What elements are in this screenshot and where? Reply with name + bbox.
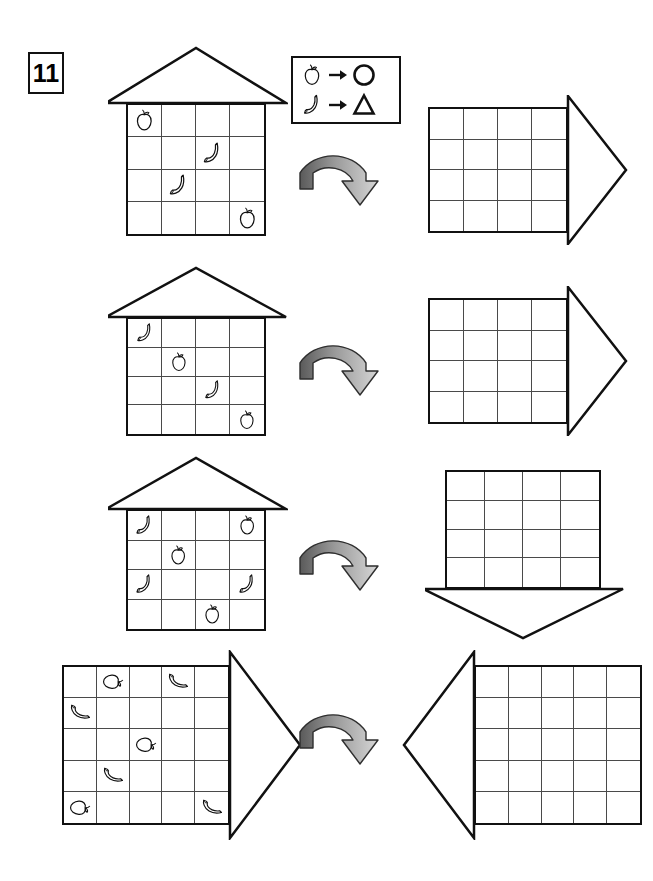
grid-cell[interactable] <box>523 530 561 559</box>
grid-cell[interactable] <box>532 300 566 331</box>
grid-cell[interactable] <box>561 530 599 559</box>
grid-cell[interactable] <box>561 472 599 501</box>
banana-icon <box>165 172 192 199</box>
empty-answer-grid[interactable] <box>428 107 568 233</box>
grid-cell <box>162 570 196 600</box>
grid-cell[interactable] <box>532 392 566 423</box>
grid-cell[interactable] <box>542 698 575 729</box>
grid-cell[interactable] <box>607 792 640 823</box>
house-grid-answer-1[interactable] <box>428 95 628 245</box>
banana-icon <box>199 795 225 821</box>
grid-cell[interactable] <box>561 501 599 530</box>
grid-cell[interactable] <box>498 109 532 140</box>
grid-cell[interactable] <box>523 501 561 530</box>
grid-cell[interactable] <box>430 140 464 171</box>
grid-cell[interactable] <box>464 331 498 362</box>
banana-icon <box>67 700 93 726</box>
grid-cell[interactable] <box>430 201 464 232</box>
grid-cell[interactable] <box>447 501 485 530</box>
grid-cell[interactable] <box>542 667 575 698</box>
grid-cell[interactable] <box>542 761 575 792</box>
grid-cell[interactable] <box>574 792 607 823</box>
grid-cell[interactable] <box>464 201 498 232</box>
empty-answer-grid[interactable] <box>474 665 642 825</box>
grid-cell[interactable] <box>542 792 575 823</box>
grid-cell[interactable] <box>464 361 498 392</box>
grid-cell[interactable] <box>485 472 523 501</box>
grid-cell[interactable] <box>498 392 532 423</box>
grid-cell[interactable] <box>430 300 464 331</box>
grid-cell[interactable] <box>532 170 566 201</box>
grid-cell[interactable] <box>607 729 640 760</box>
grid-cell[interactable] <box>542 729 575 760</box>
house-grid-answer-2[interactable] <box>428 286 628 436</box>
grid-cell[interactable] <box>476 761 509 792</box>
grid-cell[interactable] <box>607 698 640 729</box>
house-grid-answer-4[interactable] <box>402 650 642 840</box>
grid-cell[interactable] <box>607 667 640 698</box>
grid-cell[interactable] <box>532 140 566 171</box>
grid-cell[interactable] <box>509 667 542 698</box>
grid-cell[interactable] <box>509 792 542 823</box>
grid-cell[interactable] <box>532 361 566 392</box>
grid-cell[interactable] <box>485 530 523 559</box>
transformation-legend <box>291 56 401 124</box>
curved-arrow-body <box>300 541 378 590</box>
grid-cell[interactable] <box>447 558 485 587</box>
banana-icon <box>133 321 157 345</box>
grid-cell[interactable] <box>574 729 607 760</box>
grid-cell[interactable] <box>476 698 509 729</box>
apple-icon <box>234 205 261 232</box>
grid-cell[interactable] <box>476 729 509 760</box>
grid-cell[interactable] <box>532 201 566 232</box>
grid-cell[interactable] <box>509 698 542 729</box>
grid-cell[interactable] <box>430 392 464 423</box>
grid-cell[interactable] <box>430 109 464 140</box>
grid-cell[interactable] <box>464 170 498 201</box>
grid-cell[interactable] <box>464 109 498 140</box>
grid-cell[interactable] <box>430 170 464 201</box>
grid-cell[interactable] <box>509 729 542 760</box>
grid-cell <box>162 202 196 234</box>
apple-icon <box>67 795 93 821</box>
grid-cell <box>195 667 228 698</box>
empty-answer-grid[interactable] <box>428 298 568 424</box>
grid-cell[interactable] <box>485 558 523 587</box>
grid-cell[interactable] <box>464 392 498 423</box>
grid-cell[interactable] <box>476 667 509 698</box>
grid-cell[interactable] <box>447 530 485 559</box>
grid-cell <box>128 541 162 571</box>
rotation-arrow-row-2 <box>294 333 394 401</box>
grid-cell <box>196 570 230 600</box>
grid-cell[interactable] <box>498 140 532 171</box>
grid-cell <box>162 105 196 137</box>
curved-arrow-body <box>300 346 378 395</box>
grid-cell[interactable] <box>607 761 640 792</box>
grid-cell[interactable] <box>523 558 561 587</box>
grid-cell <box>162 600 196 630</box>
grid-cell[interactable] <box>498 361 532 392</box>
grid-cell[interactable] <box>574 667 607 698</box>
grid-cell[interactable] <box>430 331 464 362</box>
grid-cell <box>128 600 162 630</box>
grid-cell[interactable] <box>447 472 485 501</box>
grid-cell[interactable] <box>464 140 498 171</box>
grid-cell[interactable] <box>509 761 542 792</box>
grid-cell[interactable] <box>561 558 599 587</box>
grid-cell[interactable] <box>498 300 532 331</box>
grid-cell[interactable] <box>523 472 561 501</box>
grid-cell[interactable] <box>476 792 509 823</box>
grid-cell[interactable] <box>498 331 532 362</box>
grid-cell[interactable] <box>485 501 523 530</box>
empty-answer-grid[interactable] <box>445 470 601 589</box>
grid-cell[interactable] <box>464 300 498 331</box>
grid-cell[interactable] <box>574 698 607 729</box>
grid-cell[interactable] <box>532 109 566 140</box>
grid-cell <box>230 202 264 234</box>
grid-cell[interactable] <box>532 331 566 362</box>
grid-cell[interactable] <box>498 170 532 201</box>
grid-cell[interactable] <box>574 761 607 792</box>
grid-cell[interactable] <box>430 361 464 392</box>
house-grid-answer-3[interactable] <box>425 470 625 640</box>
grid-cell[interactable] <box>498 201 532 232</box>
